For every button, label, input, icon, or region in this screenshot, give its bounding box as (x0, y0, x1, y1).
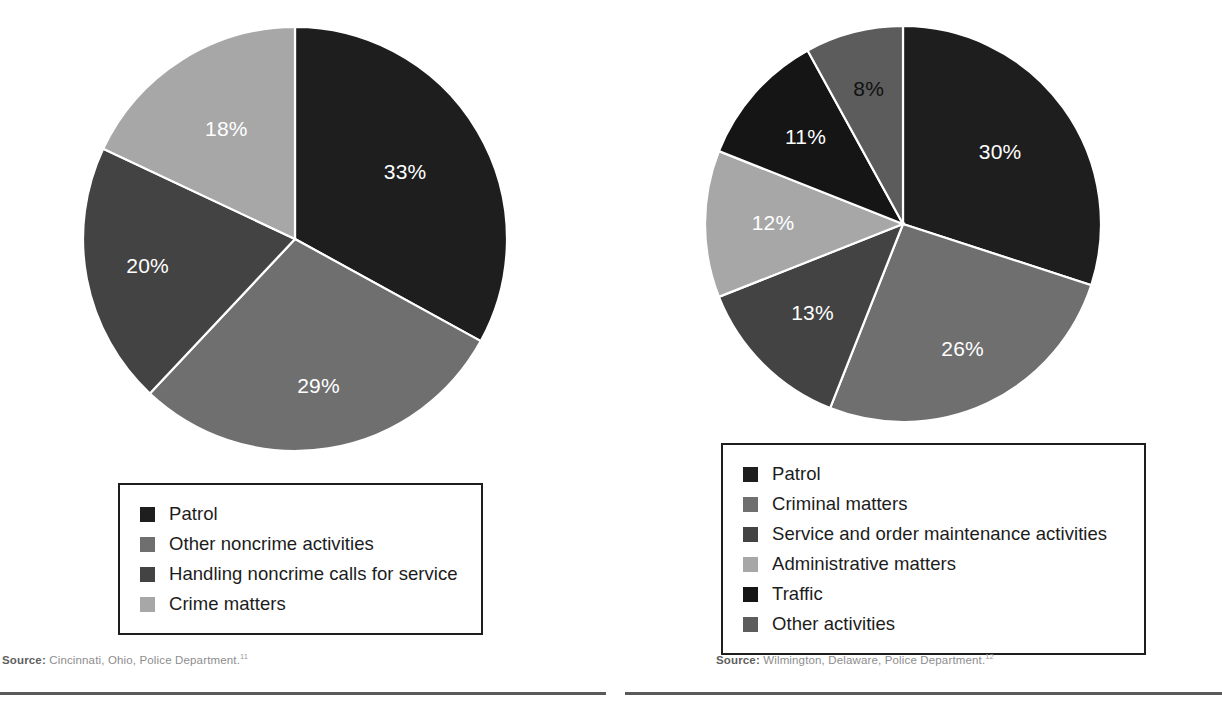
source-note-wilmington: Source: Wilmington, Delaware, Police Dep… (716, 652, 994, 666)
pie-slice-value-label: 26% (941, 337, 984, 360)
legend-item-label: Other noncrime activities (169, 533, 374, 555)
legend-swatch-icon (743, 527, 758, 542)
pie-slice-value-label: 13% (791, 301, 834, 324)
source-text: Cincinnati, Ohio, Police Department. (46, 654, 240, 666)
legend-swatch-icon (743, 617, 758, 632)
divider-rule-right (625, 692, 1222, 695)
legend-item[interactable]: Service and order maintenance activities (743, 519, 1126, 549)
pie-slice-value-label: 33% (384, 160, 427, 183)
legend-item-label: Handling noncrime calls for service (169, 563, 458, 585)
pie-slice-value-label: 12% (752, 211, 795, 234)
chart-panel-wilmington: 30%26%13%12%11%8% PatrolCriminal matters… (611, 0, 1222, 708)
legend-item[interactable]: Administrative matters (743, 549, 1126, 579)
legend-swatch-icon (743, 587, 758, 602)
legend-item-label: Patrol (772, 463, 821, 485)
legend-item-label: Traffic (772, 583, 823, 605)
divider-rule-left (0, 692, 606, 695)
legend-item[interactable]: Handling noncrime calls for service (140, 559, 463, 589)
pie-svg-wilmington: 30%26%13%12%11%8% (703, 24, 1103, 424)
legend-swatch-icon (743, 497, 758, 512)
legend-swatch-icon (140, 597, 155, 612)
legend-item[interactable]: Criminal matters (743, 489, 1126, 519)
pie-chart-wilmington: 30%26%13%12%11%8% (703, 24, 1103, 424)
source-label: Source: (2, 654, 46, 666)
pie-slice-value-label: 11% (785, 125, 826, 148)
legend-item[interactable]: Other noncrime activities (140, 529, 463, 559)
legend-item-label: Service and order maintenance activities (772, 523, 1107, 545)
source-note-cincinnati: Source: Cincinnati, Ohio, Police Departm… (2, 652, 248, 666)
source-text: Wilmington, Delaware, Police Department. (760, 654, 985, 666)
legend-cincinnati: PatrolOther noncrime activitiesHandling … (118, 483, 483, 635)
legend-item[interactable]: Patrol (743, 459, 1126, 489)
legend-swatch-icon (743, 557, 758, 572)
source-label: Source: (716, 654, 760, 666)
legend-swatch-icon (743, 467, 758, 482)
pie-slice-value-label: 8% (853, 77, 884, 100)
legend-swatch-icon (140, 507, 155, 522)
legend-wilmington: PatrolCriminal mattersService and order … (721, 443, 1146, 655)
legend-item-label: Other activities (772, 613, 895, 635)
legend-item[interactable]: Traffic (743, 579, 1126, 609)
legend-item-label: Crime matters (169, 593, 286, 615)
legend-item-label: Administrative matters (772, 553, 956, 575)
chart-panel-cincinnati: 33%29%20%18% PatrolOther noncrime activi… (0, 0, 611, 708)
legend-swatch-icon (140, 537, 155, 552)
pie-slice-value-label: 30% (979, 140, 1022, 163)
legend-item-label: Patrol (169, 503, 218, 525)
source-footnote-marker: 12 (985, 652, 994, 661)
legend-item[interactable]: Patrol (140, 499, 463, 529)
pie-slice-value-label: 18% (205, 117, 248, 140)
pie-chart-cincinnati: 33%29%20%18% (81, 25, 509, 453)
pie-svg-cincinnati: 33%29%20%18% (81, 25, 509, 453)
source-footnote-marker: 11 (240, 652, 248, 661)
pie-slice-value-label: 29% (297, 374, 340, 397)
legend-item[interactable]: Crime matters (140, 589, 463, 619)
legend-item[interactable]: Other activities (743, 609, 1126, 639)
pie-slice-value-label: 20% (126, 254, 169, 277)
legend-swatch-icon (140, 567, 155, 582)
legend-item-label: Criminal matters (772, 493, 907, 515)
